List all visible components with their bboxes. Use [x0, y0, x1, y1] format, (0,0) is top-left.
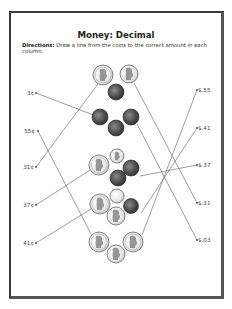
penny-coin-icon — [110, 170, 126, 186]
penny-coin-icon — [92, 109, 108, 125]
coin-group-1 — [93, 65, 138, 100]
line-55c — [38, 131, 92, 236]
line-037 — [140, 165, 197, 176]
line-41c — [36, 209, 91, 243]
coin-group-2 — [92, 109, 139, 136]
line-3c — [36, 93, 96, 116]
penny-coin-icon — [108, 120, 124, 136]
coin-group-4 — [90, 189, 139, 225]
line-031 — [134, 83, 197, 203]
line-055 — [142, 90, 197, 235]
dime-coin-icon — [110, 189, 124, 203]
coins-and-lines — [0, 0, 232, 309]
coin-group-3 — [89, 149, 139, 186]
penny-coin-icon — [108, 84, 124, 100]
coin-group-5 — [89, 232, 143, 263]
penny-coin-icon — [123, 109, 139, 125]
penny-coin-icon — [124, 199, 139, 214]
penny-coin-icon — [123, 160, 139, 176]
line-37c — [36, 170, 90, 205]
